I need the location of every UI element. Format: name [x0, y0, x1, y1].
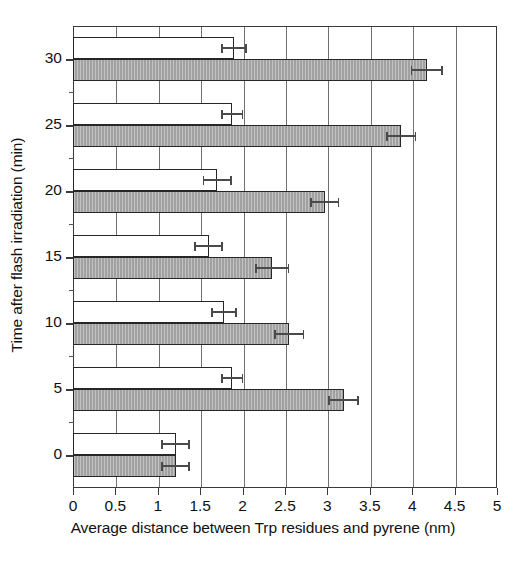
error-cap-upper: [357, 396, 359, 405]
error-cap-lower: [161, 462, 163, 471]
error-bar-gray-bar-5min: [329, 399, 358, 401]
error-cap-lower: [255, 264, 257, 273]
x-axis-tick-label: 4: [390, 497, 434, 515]
error-cap-lower: [310, 198, 312, 207]
error-cap-upper: [288, 264, 290, 273]
x-axis-tick-label: 0: [51, 497, 95, 515]
x-axis-tick-label: 3.5: [348, 497, 392, 515]
bar-white-bar-25min: [73, 103, 232, 125]
error-cap-upper: [441, 66, 443, 75]
y-axis-minor-tick: [69, 224, 74, 225]
bar-white-bar-30min: [73, 37, 234, 59]
x-axis-tick: [327, 488, 328, 495]
bar-gray-bar-0min: [73, 455, 176, 477]
error-cap-lower: [221, 110, 223, 119]
error-bar-gray-bar-20min: [311, 201, 338, 203]
bar-white-bar-0min: [73, 433, 176, 455]
bar-white-bar-10min: [73, 301, 224, 323]
error-cap-upper: [415, 132, 417, 141]
error-cap-lower: [411, 66, 413, 75]
y-axis-minor-tick: [69, 356, 74, 357]
x-axis-tick: [285, 488, 286, 495]
x-axis-tick: [115, 488, 116, 495]
bar-gray-bar-10min: [73, 323, 289, 345]
y-axis-tick-label: 30: [18, 49, 62, 67]
gridline-x: [371, 27, 372, 487]
error-cap-lower: [221, 374, 223, 383]
y-axis-tick-label: 0: [18, 445, 62, 463]
x-axis-tick: [370, 488, 371, 495]
y-axis-title: Time after flash irradiation (min): [0, 0, 34, 490]
bar-gray-bar-20min: [73, 191, 325, 213]
x-axis-tick-label: 1.5: [178, 497, 222, 515]
x-axis-tick: [412, 488, 413, 495]
x-axis-tick-label: 2.5: [263, 497, 307, 515]
y-axis-tick-label: 25: [18, 115, 62, 133]
gridline-x: [456, 27, 457, 487]
x-axis-tick: [200, 488, 201, 495]
x-axis-tick: [158, 488, 159, 495]
error-bar-white-bar-25min: [222, 113, 242, 115]
y-axis-tick-label: 20: [18, 181, 62, 199]
error-cap-lower: [203, 176, 205, 185]
error-cap-upper: [242, 374, 244, 383]
x-axis-tick-label: 0.5: [93, 497, 137, 515]
x-axis-tick-label: 4.5: [433, 497, 477, 515]
error-bar-white-bar-30min: [222, 47, 246, 49]
error-bar-gray-bar-25min: [387, 135, 416, 137]
bar-gray-bar-15min: [73, 257, 272, 279]
error-cap-lower: [161, 440, 163, 449]
error-cap-lower: [386, 132, 388, 141]
gridline-x: [413, 27, 414, 487]
error-bar-gray-bar-0min: [162, 465, 189, 467]
error-bar-gray-bar-10min: [275, 333, 304, 335]
error-bar-white-bar-10min: [212, 311, 236, 313]
y-axis-tick-label: 5: [18, 379, 62, 397]
x-axis-title: Average distance between Trp residues an…: [0, 519, 526, 537]
error-bar-white-bar-0min: [162, 443, 189, 445]
error-cap-lower: [274, 330, 276, 339]
error-cap-upper: [188, 440, 190, 449]
error-cap-upper: [235, 308, 237, 317]
y-axis-minor-tick: [69, 158, 74, 159]
x-axis-tick: [243, 488, 244, 495]
x-axis-tick-label: 2: [221, 497, 265, 515]
error-cap-upper: [303, 330, 305, 339]
error-cap-lower: [211, 308, 213, 317]
y-axis-minor-tick: [69, 290, 74, 291]
bar-white-bar-20min: [73, 169, 217, 191]
bar-white-bar-15min: [73, 235, 209, 257]
error-cap-upper: [188, 462, 190, 471]
error-cap-upper: [242, 110, 244, 119]
gridline-x: [328, 27, 329, 487]
error-cap-upper: [245, 44, 247, 53]
y-axis-minor-tick: [69, 92, 74, 93]
x-axis-tick-label: 3: [305, 497, 349, 515]
error-cap-lower: [194, 242, 196, 251]
x-axis-tick: [73, 488, 74, 495]
error-cap-upper: [221, 242, 223, 251]
bar-gray-bar-5min: [73, 389, 344, 411]
chart-figure: Time after flash irradiation (min) Avera…: [0, 0, 526, 562]
bar-white-bar-5min: [73, 367, 232, 389]
error-bar-white-bar-20min: [204, 179, 231, 181]
error-bar-gray-bar-15min: [256, 267, 288, 269]
error-cap-lower: [221, 44, 223, 53]
error-bar-white-bar-15min: [195, 245, 222, 247]
bar-gray-bar-25min: [73, 125, 401, 147]
gridline-x: [286, 27, 287, 487]
x-axis-tick: [455, 488, 456, 495]
error-cap-upper: [338, 198, 340, 207]
x-axis-tick: [497, 488, 498, 495]
x-axis-tick-label: 1: [136, 497, 180, 515]
y-axis-tick-label: 15: [18, 247, 62, 265]
y-axis-tick-label: 10: [18, 313, 62, 331]
error-bar-gray-bar-30min: [411, 69, 442, 71]
error-bar-white-bar-5min: [222, 377, 242, 379]
error-cap-upper: [230, 176, 232, 185]
x-axis-tick-label: 5: [475, 497, 519, 515]
error-cap-lower: [328, 396, 330, 405]
bar-gray-bar-30min: [73, 59, 427, 81]
y-axis-minor-tick: [69, 422, 74, 423]
